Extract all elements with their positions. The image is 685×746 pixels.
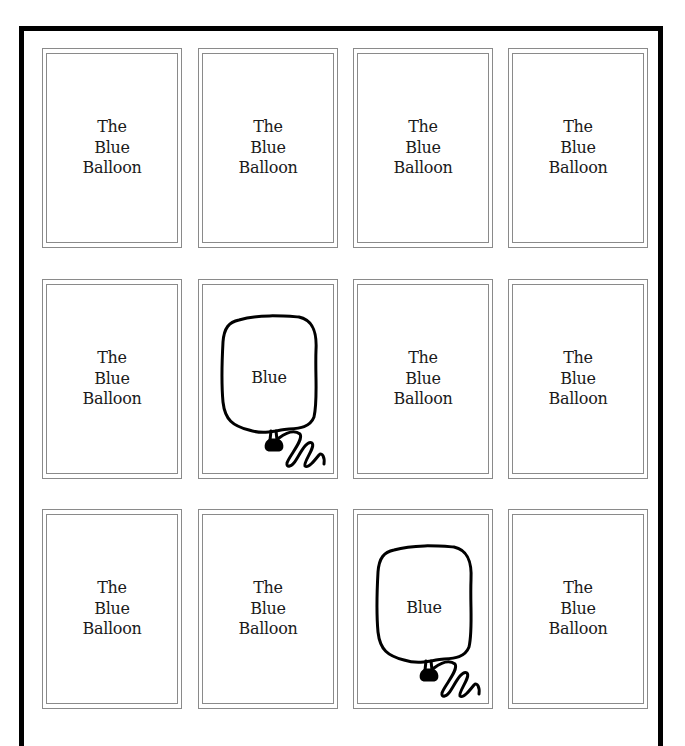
memory-card-r1-c3[interactable]: The Blue Balloon <box>353 48 493 248</box>
card-title-line: Balloon <box>43 619 181 640</box>
card-title-line: Balloon <box>199 619 337 640</box>
memory-card-r3-c2[interactable]: The Blue Balloon <box>198 509 338 709</box>
card-title-line: The <box>43 578 181 599</box>
card-title-line: The <box>199 578 337 599</box>
memory-card-r1-c1[interactable]: The Blue Balloon <box>42 48 182 248</box>
card-title-line: Blue <box>509 599 647 620</box>
card-title-line: The <box>43 348 181 369</box>
card-title-line: Balloon <box>509 389 647 410</box>
card-title-line: Blue <box>43 138 181 159</box>
card-back-title: The Blue Balloon <box>509 578 647 640</box>
card-title-line: Blue <box>199 599 337 620</box>
card-back-title: The Blue Balloon <box>354 117 492 179</box>
card-back-title: The Blue Balloon <box>43 348 181 410</box>
memory-card-r3-c3[interactable]: Blue <box>353 509 493 709</box>
card-back-title: The Blue Balloon <box>199 117 337 179</box>
card-back-title: The Blue Balloon <box>43 117 181 179</box>
memory-card-r2-c1[interactable]: The Blue Balloon <box>42 279 182 479</box>
memory-card-r2-c3[interactable]: The Blue Balloon <box>353 279 493 479</box>
memory-card-r2-c4[interactable]: The Blue Balloon <box>508 279 648 479</box>
card-title-line: Blue <box>509 369 647 390</box>
card-title-line: Blue <box>354 369 492 390</box>
card-face-label: Blue <box>377 598 471 617</box>
memory-card-r1-c4[interactable]: The Blue Balloon <box>508 48 648 248</box>
card-face-label: Blue <box>222 368 316 387</box>
card-back-title: The Blue Balloon <box>509 117 647 179</box>
card-title-line: Blue <box>43 369 181 390</box>
card-back-title: The Blue Balloon <box>354 348 492 410</box>
card-back-title: The Blue Balloon <box>509 348 647 410</box>
memory-card-r1-c2[interactable]: The Blue Balloon <box>198 48 338 248</box>
card-back-title: The Blue Balloon <box>199 578 337 640</box>
card-title-line: Blue <box>354 138 492 159</box>
card-title-line: Balloon <box>199 158 337 179</box>
card-title-line: Balloon <box>43 389 181 410</box>
card-title-line: Blue <box>43 599 181 620</box>
card-title-line: The <box>354 348 492 369</box>
card-back-title: The Blue Balloon <box>43 578 181 640</box>
card-title-line: The <box>509 578 647 599</box>
card-title-line: Balloon <box>509 158 647 179</box>
card-title-line: The <box>199 117 337 138</box>
memory-card-r2-c2[interactable]: Blue <box>198 279 338 479</box>
card-title-line: Blue <box>199 138 337 159</box>
card-title-line: Balloon <box>354 158 492 179</box>
card-title-line: Balloon <box>43 158 181 179</box>
card-title-line: Balloon <box>509 619 647 640</box>
memory-card-r3-c1[interactable]: The Blue Balloon <box>42 509 182 709</box>
card-title-line: The <box>509 348 647 369</box>
card-title-line: The <box>354 117 492 138</box>
card-title-line: Balloon <box>354 389 492 410</box>
card-title-line: The <box>509 117 647 138</box>
card-title-line: Blue <box>509 138 647 159</box>
card-title-line: The <box>43 117 181 138</box>
memory-card-r3-c4[interactable]: The Blue Balloon <box>508 509 648 709</box>
